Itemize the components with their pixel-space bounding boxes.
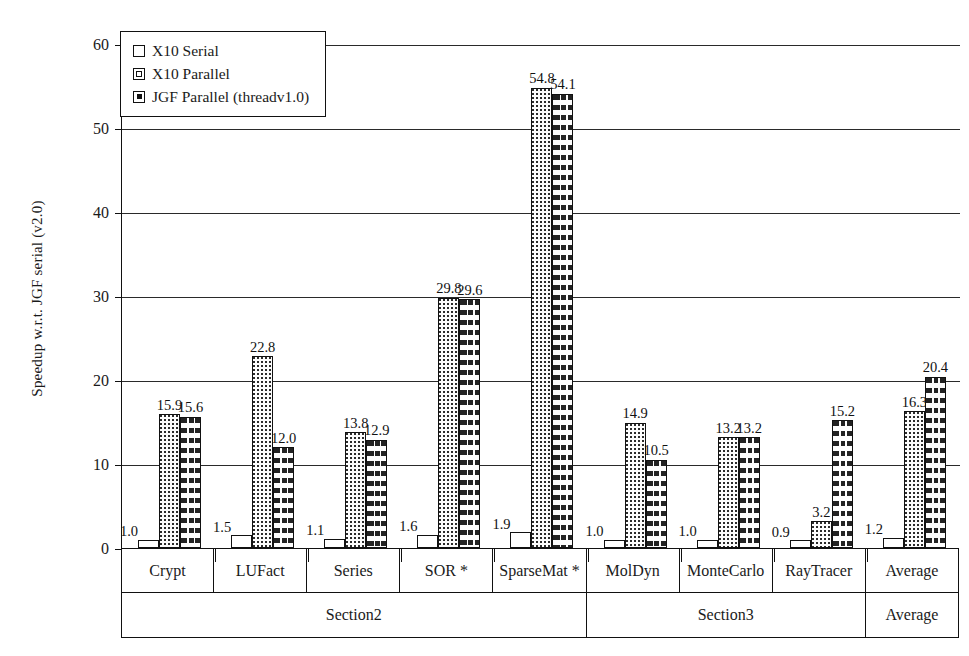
category-label-raytracer: RayTracer: [773, 549, 866, 592]
bar-value-label: 12.9: [360, 423, 394, 438]
bar-crypt-serial[interactable]: [138, 540, 159, 548]
y-axis-title: Speedup w.r.t. JGF serial (v2.0): [29, 119, 46, 479]
bar-raytracer-serial[interactable]: [790, 540, 811, 548]
bar-value-label: 15.6: [174, 400, 208, 415]
bar-sor-jgf[interactable]: [459, 299, 480, 548]
y-tick-label-50: 50: [63, 121, 109, 137]
bar-value-label: 13.2: [732, 421, 766, 436]
legend-swatch-serial-icon: [133, 45, 145, 57]
legend-label-x10-serial: X10 Serial: [152, 42, 219, 60]
bar-lufact-jgf[interactable]: [273, 447, 294, 548]
bar-value-label: 15.2: [825, 404, 859, 419]
bar-value-label: 1.0: [572, 524, 604, 539]
bar-value-label: 1.0: [106, 524, 138, 539]
y-tick-label-0: 0: [63, 541, 109, 557]
category-label-moldyn: MolDyn: [587, 549, 680, 592]
bar-raytracer-jgf[interactable]: [832, 420, 853, 548]
bar-value-label: 22.8: [246, 340, 280, 355]
legend-swatch-jgf-icon: [133, 91, 145, 103]
bar-value-label: 1.2: [851, 522, 883, 537]
bar-group-average: 1.216.320.4: [867, 44, 960, 548]
bar-lufact-serial[interactable]: [231, 535, 252, 548]
bar-group-crypt: 1.015.915.6: [122, 44, 215, 548]
legend-label-x10-parallel: X10 Parallel: [152, 65, 230, 83]
bar-sparsemat-parallel[interactable]: [531, 88, 552, 548]
category-axis-row: CryptLUFactSeriesSOR *SparseMat *MolDynM…: [121, 549, 959, 593]
bar-value-label: 20.4: [918, 360, 952, 375]
bar-value-label: 12.0: [267, 431, 301, 446]
bar-value-label: 1.5: [199, 520, 231, 535]
category-label-lufact: LUFact: [214, 549, 307, 592]
y-tick-label-30: 30: [63, 289, 109, 305]
bar-group-montecarlo: 1.013.213.2: [681, 44, 774, 548]
bar-series-parallel[interactable]: [345, 432, 366, 548]
bar-average-jgf[interactable]: [925, 377, 946, 548]
bar-value-label: 14.9: [618, 406, 652, 421]
bar-average-parallel[interactable]: [904, 411, 925, 548]
plot-area: 1.015.915.61.522.812.01.113.812.91.629.8…: [121, 45, 959, 549]
bar-moldyn-serial[interactable]: [604, 540, 625, 548]
section-label-section3: Section3: [587, 593, 866, 637]
bar-value-label: 1.1: [292, 523, 324, 538]
y-tick-label-60: 60: [63, 37, 109, 53]
y-tick-20: [115, 381, 122, 382]
legend-swatch-parallel-icon: [133, 68, 145, 80]
bar-average-serial[interactable]: [883, 538, 904, 548]
bar-group-moldyn: 1.014.910.5: [588, 44, 681, 548]
bar-group-sor: 1.629.829.6: [401, 44, 494, 548]
bar-montecarlo-serial[interactable]: [697, 540, 718, 548]
category-label-montecarlo: MonteCarlo: [680, 549, 773, 592]
chart-legend: X10 Serial X10 Parallel JGF Parallel (th…: [120, 31, 326, 117]
bar-crypt-parallel[interactable]: [159, 414, 180, 548]
category-label-series: Series: [307, 549, 400, 592]
bar-sor-serial[interactable]: [417, 535, 438, 548]
bar-value-label: 1.6: [385, 519, 417, 534]
bar-moldyn-jgf[interactable]: [646, 460, 667, 548]
category-label-sor: SOR *: [400, 549, 493, 592]
section-axis-row: Section2Section3Average: [121, 593, 959, 638]
section-label-section2: Section2: [121, 593, 587, 637]
bar-value-label: 0.9: [758, 525, 790, 540]
y-tick-label-40: 40: [63, 205, 109, 221]
category-label-average: Average: [866, 549, 959, 592]
bar-series-jgf[interactable]: [366, 440, 387, 548]
y-tick-40: [115, 213, 122, 214]
bar-crypt-jgf[interactable]: [180, 417, 201, 548]
bar-raytracer-parallel[interactable]: [811, 521, 832, 548]
legend-item-jgf-parallel: JGF Parallel (threadv1.0): [133, 85, 309, 108]
y-tick-label-10: 10: [63, 457, 109, 473]
bar-series-serial[interactable]: [324, 539, 345, 548]
y-tick-30: [115, 297, 122, 298]
bar-lufact-parallel[interactable]: [252, 356, 273, 548]
y-tick-50: [115, 129, 122, 130]
bar-sor-parallel[interactable]: [438, 298, 459, 548]
legend-item-x10-serial: X10 Serial: [133, 39, 309, 62]
legend-item-x10-parallel: X10 Parallel: [133, 62, 309, 85]
bar-value-label: 10.5: [639, 443, 673, 458]
bar-montecarlo-jgf[interactable]: [739, 437, 760, 548]
bar-value-label: 29.6: [453, 283, 487, 298]
bar-group-series: 1.113.812.9: [308, 44, 401, 548]
bar-value-label: 1.9: [479, 517, 511, 532]
bar-montecarlo-parallel[interactable]: [718, 437, 739, 548]
bar-group-raytracer: 0.93.215.2: [774, 44, 867, 548]
bar-sparsemat-jgf[interactable]: [552, 94, 573, 548]
bar-sparsemat-serial[interactable]: [510, 532, 531, 548]
section-label-average: Average: [866, 593, 959, 637]
category-label-sparsemat: SparseMat *: [493, 549, 586, 592]
bar-group-sparsemat: 1.954.854.1: [494, 44, 587, 548]
bar-value-label: 54.1: [546, 77, 580, 92]
category-label-crypt: Crypt: [121, 549, 214, 592]
speedup-bar-chart: Speedup w.r.t. JGF serial (v2.0) 0102030…: [0, 0, 969, 656]
y-tick-label-20: 20: [63, 373, 109, 389]
bar-value-label: 1.0: [665, 524, 697, 539]
legend-label-jgf-parallel: JGF Parallel (threadv1.0): [152, 88, 309, 106]
y-tick-10: [115, 465, 122, 466]
bar-group-lufact: 1.522.812.0: [215, 44, 308, 548]
